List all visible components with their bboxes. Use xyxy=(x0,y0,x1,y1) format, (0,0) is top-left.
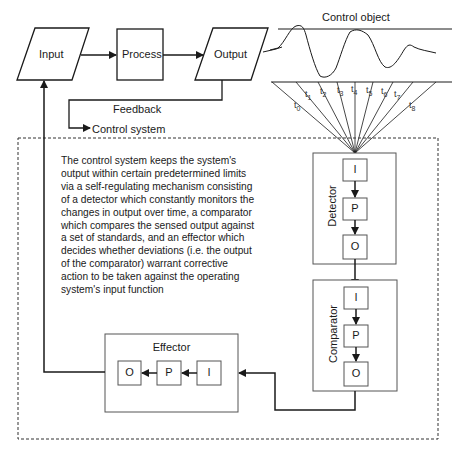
control-object-label: Control object xyxy=(322,11,390,24)
time-label-6: t6 xyxy=(381,86,387,98)
effector-i-label: I xyxy=(197,366,221,378)
control-object-wave xyxy=(270,25,436,77)
time-label-1: t1 xyxy=(305,89,311,101)
control-system-description: The control system keeps the system's ou… xyxy=(61,155,291,297)
process-label: Process xyxy=(122,48,162,61)
effector-label: Effector xyxy=(105,341,238,353)
time-label-8: t8 xyxy=(409,100,415,112)
time-label-4: t4 xyxy=(351,84,357,96)
comparator-p-label: P xyxy=(344,329,368,341)
effector-o-label: O xyxy=(118,366,141,378)
time-label-0: t0 xyxy=(294,100,300,112)
detector-label: Detector xyxy=(326,181,338,231)
time-label-7: t7 xyxy=(394,89,400,101)
time-label-3: t3 xyxy=(337,85,343,97)
comparator-i-label: I xyxy=(344,291,368,303)
output-label: Output xyxy=(214,48,247,61)
comparator-label: Comparator xyxy=(327,299,339,369)
detector-o-label: O xyxy=(343,240,367,252)
detector-p-label: P xyxy=(343,202,367,214)
time-label-2: t2 xyxy=(320,86,326,98)
time-label-5: t5 xyxy=(366,85,372,97)
comparator-o-label: O xyxy=(344,367,368,379)
input-label: Input xyxy=(39,48,63,61)
control-system-label: Control system xyxy=(92,123,165,136)
feedback-label: Feedback xyxy=(113,103,161,116)
detector-i-label: I xyxy=(343,163,367,175)
effector-p-label: P xyxy=(157,366,181,378)
